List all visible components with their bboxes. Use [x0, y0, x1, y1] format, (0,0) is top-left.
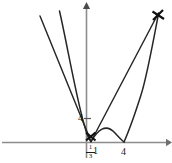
- math-graph-figure: 4 1 4 1 3: [0, 0, 172, 163]
- y-axis-arrow-icon: [83, 2, 90, 9]
- x-tick-label-one-third: 1 3: [86, 144, 95, 160]
- fraction-numerator: 1: [86, 144, 95, 151]
- abs-line-right-branch: [91, 13, 159, 142]
- series-absolute-value-quadratic: [60, 11, 159, 142]
- series-absolute-value-line: [40, 13, 159, 142]
- x-tick-label-4: 4: [121, 147, 126, 157]
- graph-canvas: [0, 0, 172, 163]
- y-tick-label-4: 4: [78, 113, 83, 123]
- x-axis-arrow-icon: [166, 139, 172, 146]
- fraction-denominator: 3: [86, 153, 95, 160]
- abs-quadratic-right-branch: [124, 14, 159, 143]
